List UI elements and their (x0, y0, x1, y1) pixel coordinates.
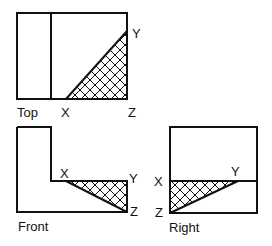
top-view-label: Top (17, 105, 38, 120)
projection-diagram: Top X Z Y Front X Y Z Right X Z Y (0, 0, 272, 246)
front-point-y-label: Y (129, 171, 138, 186)
right-point-y-label: Y (231, 164, 240, 179)
front-point-z-label: Z (130, 204, 138, 219)
right-view: Right X Z Y (154, 127, 257, 235)
right-view-label: Right (169, 220, 200, 235)
right-point-x-label: X (154, 174, 163, 189)
front-point-x-label: X (60, 166, 69, 181)
top-point-y-label: Y (132, 26, 141, 41)
front-view-label: Front (18, 219, 49, 234)
top-view: Top X Z Y (17, 13, 141, 120)
front-view: Front X Y Z (17, 127, 138, 234)
top-point-x-label: X (61, 105, 70, 120)
top-point-z-label: Z (128, 105, 136, 120)
right-point-z-label: Z (155, 205, 163, 220)
